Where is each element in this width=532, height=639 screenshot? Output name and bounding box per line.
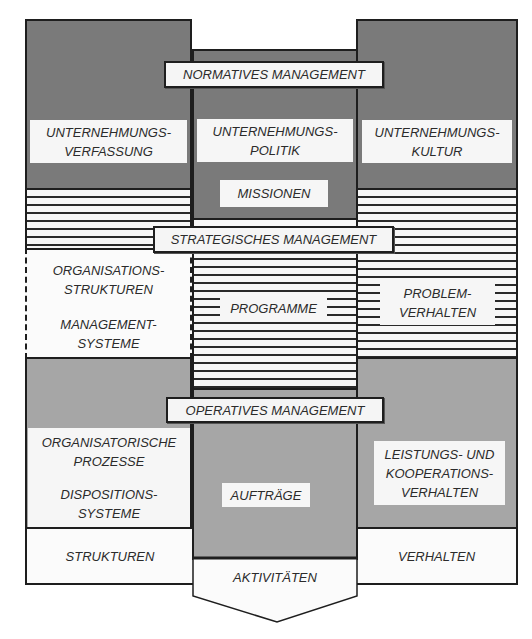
operatives-management-title: OPERATIVES MANAGEMENT [166,397,384,423]
aktivitaeten-arrow [0,0,532,639]
strategisches-management-title: STRATEGISCHES MANAGEMENT [153,226,394,253]
normatives-management-title: NORMATIVES MANAGEMENT [164,61,384,88]
aktivitaeten-label: AKTIVITÄTEN [193,565,357,589]
